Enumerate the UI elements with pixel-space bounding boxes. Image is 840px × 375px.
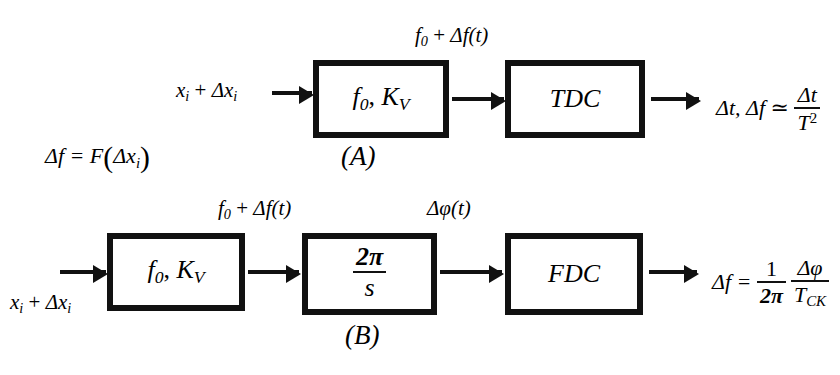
- panel-b-mid1-plus: +: [231, 196, 253, 220]
- panel-a-input-x: x: [176, 78, 185, 102]
- panel-b-integrator-denominator: s: [353, 273, 386, 301]
- panel-b-input-delta-x-sub: i: [67, 300, 71, 316]
- panel-b-integrator-numerator: 2π: [353, 244, 386, 273]
- panel-a-kv-k: K: [381, 82, 398, 111]
- panel-b-input-signal-label: xi + Δxi: [10, 292, 71, 315]
- panel-b-output-arrow: [649, 270, 697, 274]
- side-eq-open-paren: (: [103, 141, 113, 173]
- panel-a-out-denominator: T2: [794, 109, 820, 134]
- panel-a-block-vco-label: f0, KV: [352, 84, 409, 114]
- panel-a-out-numerator: Δt: [794, 84, 820, 109]
- panel-a-mid-df: Δf: [450, 23, 468, 47]
- panel-a-out-lead: Δt, Δf ≃: [716, 95, 794, 120]
- panel-b-mid1-f-sub: 0: [224, 206, 231, 222]
- side-equation: Δf = F(Δxi): [45, 143, 150, 173]
- panel-a-input-signal-label: xi + Δxi: [176, 80, 237, 103]
- panel-b-input-x: x: [10, 290, 19, 314]
- panel-b-f0-f: f: [147, 255, 154, 284]
- panel-a-comma: ,: [368, 82, 381, 111]
- panel-b-block-integrator[interactable]: 2πs: [302, 233, 437, 315]
- panel-b-out-f1-numerator: 1: [757, 258, 786, 283]
- panel-b-out-fraction-2: ΔφTCK: [791, 257, 829, 309]
- panel-b-interconnect-arrow-1: [248, 270, 299, 274]
- panel-b-out-f2-denominator: TCK: [791, 282, 829, 309]
- panel-a-block-vco[interactable]: f0, KV: [313, 60, 449, 138]
- panel-b-out-lead: Δf =: [712, 269, 757, 294]
- panel-a-mid-plus: +: [428, 23, 450, 47]
- side-eq-arg: Δx: [113, 143, 136, 168]
- panel-a-tag: (A): [341, 143, 375, 170]
- side-eq-close-paren: ): [140, 141, 150, 173]
- panel-b-mid1-df: Δf: [253, 196, 271, 220]
- panel-a-f0-f: f: [352, 82, 359, 111]
- panel-b-block-vco[interactable]: f0, KV: [107, 233, 245, 311]
- panel-a-out-den-exponent: 2: [810, 110, 817, 126]
- panel-b-out-f1-denominator: 2π: [757, 283, 786, 307]
- panel-b-out-f2-den-sub: CK: [806, 293, 826, 309]
- panel-a-input-delta-x: Δx: [212, 78, 234, 102]
- panel-b-interconnect-arrow-2: [440, 270, 502, 274]
- panel-b-kv-k: K: [176, 255, 193, 284]
- panel-b-mid1-t: (t): [272, 196, 292, 220]
- panel-b-out-fraction-1: 12π: [757, 258, 786, 307]
- panel-b-tag: (B): [345, 322, 379, 349]
- panel-a-out-den-T: T: [797, 110, 809, 135]
- panel-a-out-fraction: ΔtT2: [794, 84, 820, 134]
- panel-a-mid-signal-label: f0 + Δf(t): [415, 25, 488, 48]
- panel-a-input-arrow: [272, 91, 312, 95]
- panel-b-block-fdc[interactable]: FDC: [505, 233, 643, 315]
- panel-b-integrator-fraction: 2πs: [353, 244, 386, 301]
- panel-b-mid-signal-2-label: Δφ(t): [427, 198, 471, 219]
- panel-a-output-arrow: [651, 97, 699, 101]
- panel-b-comma: ,: [163, 255, 176, 284]
- panel-b-out-f2-den-T: T: [794, 282, 806, 307]
- panel-b-input-delta-x: Δx: [46, 290, 68, 314]
- panel-b-kv-sub: V: [194, 267, 205, 287]
- panel-b-mid-signal-1-label: f0 + Δf(t): [218, 198, 291, 221]
- side-eq-lead: Δf = F: [45, 143, 103, 168]
- panel-a-mid-t: (t): [469, 23, 489, 47]
- panel-a-interconnect-arrow: [452, 97, 504, 101]
- panel-a-block-tdc[interactable]: TDC: [505, 60, 645, 138]
- panel-a-input-delta-x-sub: i: [233, 88, 237, 104]
- panel-b-block-integrator-label: 2πs: [353, 246, 386, 303]
- panel-b-output-expression: Δf = 12πΔφTCK: [712, 258, 829, 310]
- panel-b-out-f2-numerator: Δφ: [791, 257, 829, 282]
- panel-a-mid-f-sub: 0: [421, 33, 428, 49]
- panel-b-block-fdc-label: FDC: [548, 261, 600, 287]
- panel-a-kv-sub: V: [399, 94, 410, 114]
- panel-a-output-expression: Δt, Δf ≃ ΔtT2: [716, 85, 820, 135]
- panel-b-input-plus: +: [23, 290, 45, 314]
- panel-b-block-vco-label: f0, KV: [147, 257, 204, 287]
- figure-canvas: xi + Δxi f0, KV (A) f0 + Δf(t) TDC Δt, Δ…: [0, 0, 840, 375]
- panel-b-input-arrow: [60, 270, 106, 274]
- panel-a-block-tdc-label: TDC: [550, 86, 601, 112]
- panel-a-input-plus: +: [189, 78, 211, 102]
